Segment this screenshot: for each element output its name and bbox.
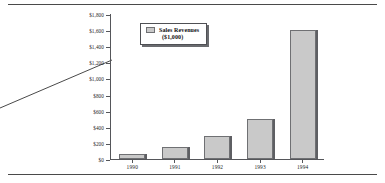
page-rule-bottom bbox=[8, 174, 377, 175]
x-axis-label-1994: 1994 bbox=[281, 164, 324, 170]
y-axis-tick-label: $0 bbox=[99, 157, 104, 163]
x-axis-label-slot: 1994 bbox=[281, 14, 324, 15]
chart-legend: Sales Revenues ($1,000) bbox=[140, 23, 207, 45]
x-axis-labels: 19901991199219931994 bbox=[111, 14, 324, 15]
legend-label: Sales Revenues bbox=[159, 27, 199, 33]
x-axis-label-slot: 1992 bbox=[196, 14, 239, 15]
y-axis-tick-label: $600 bbox=[93, 109, 104, 115]
leader-line bbox=[0, 60, 112, 108]
x-axis-label-slot: 1991 bbox=[154, 14, 197, 15]
x-axis-label-slot: 1993 bbox=[239, 14, 282, 15]
y-axis-tick-label: $800 bbox=[93, 93, 104, 99]
y-axis-tick-label: $1,800 bbox=[89, 12, 104, 18]
page-rule-top bbox=[8, 4, 377, 5]
bar-1992 bbox=[204, 136, 230, 159]
bar-1993 bbox=[247, 119, 273, 159]
x-axis-tick bbox=[174, 159, 175, 163]
y-axis-tick-label: $1,200 bbox=[89, 60, 104, 66]
y-axis-tick bbox=[106, 128, 110, 129]
y-axis-tick-label: $400 bbox=[93, 125, 104, 131]
y-axis-tick bbox=[106, 160, 110, 161]
y-axis-tick-label: $1,600 bbox=[89, 28, 104, 34]
x-axis-label-1991: 1991 bbox=[154, 164, 197, 170]
y-axis-tick-label: $1,400 bbox=[89, 44, 104, 50]
x-axis-label-slot: 1990 bbox=[111, 14, 154, 15]
y-axis-tick bbox=[106, 112, 110, 113]
bar-slot bbox=[239, 14, 282, 159]
y-axis-tick-label: $200 bbox=[93, 141, 104, 147]
y-axis-tick bbox=[106, 47, 110, 48]
legend-swatch-icon bbox=[146, 27, 155, 33]
x-axis-tick bbox=[302, 159, 303, 163]
x-axis-tick bbox=[217, 159, 218, 163]
bar-slot bbox=[281, 14, 324, 159]
x-axis-tick bbox=[260, 159, 261, 163]
bar-chart-plot-area: $0$200$400$600$800$1,000$1,200$1,400$1,6… bbox=[110, 14, 324, 160]
y-axis-tick bbox=[106, 15, 110, 16]
x-axis-label-1992: 1992 bbox=[196, 164, 239, 170]
y-axis-tick-label: $1,000 bbox=[89, 76, 104, 82]
x-axis-tick bbox=[132, 159, 133, 163]
y-axis-tick bbox=[106, 63, 110, 64]
y-axis-tick bbox=[106, 79, 110, 80]
figure-page: $0$200$400$600$800$1,000$1,200$1,400$1,6… bbox=[0, 0, 385, 183]
y-axis-tick bbox=[106, 96, 110, 97]
bar-1991 bbox=[162, 147, 188, 159]
legend-entry: Sales Revenues bbox=[146, 27, 199, 33]
bar-1994 bbox=[290, 30, 316, 159]
x-axis-label-1990: 1990 bbox=[111, 164, 154, 170]
legend-units: ($1,000) bbox=[146, 34, 199, 40]
y-axis-tick bbox=[106, 31, 110, 32]
y-axis-tick bbox=[106, 144, 110, 145]
x-axis-label-1993: 1993 bbox=[239, 164, 282, 170]
